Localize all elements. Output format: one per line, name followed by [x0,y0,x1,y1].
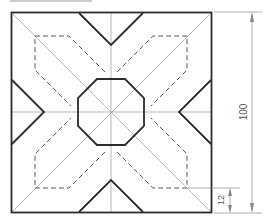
hidden-pocket-bottom-left [35,118,105,188]
hidden-pocket-top-right [117,36,187,106]
technical-drawing: 100 12 [0,0,264,223]
diagonal-construction-lines [12,13,211,212]
dimension-12-label: 12 [216,195,226,205]
dimension-12 [188,188,240,213]
dimension-100-label: 100 [238,103,249,120]
